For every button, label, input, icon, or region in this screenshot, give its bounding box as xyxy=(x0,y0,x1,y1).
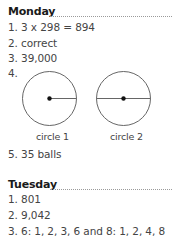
circle-1-radius-icon xyxy=(23,72,77,126)
tuesday-answer-1: 1. 801 xyxy=(8,193,41,205)
tuesday-dotted-rule xyxy=(50,189,172,190)
monday-answer-5: 5. 35 balls xyxy=(8,148,61,160)
circle-2-diameter-icon xyxy=(97,72,151,126)
circle-1-label: circle 1 xyxy=(36,131,69,142)
circle-2-label: circle 2 xyxy=(110,131,143,142)
tuesday-answer-3: 3. 6: 1, 2, 3, 6 and 8: 1, 2, 4, 8 xyxy=(8,225,165,236)
tuesday-answer-2: 2. 9,042 xyxy=(8,209,51,221)
